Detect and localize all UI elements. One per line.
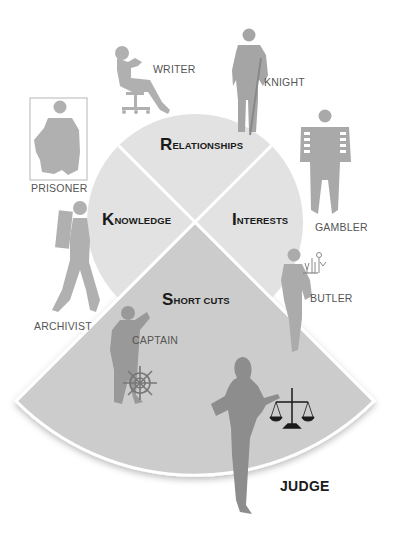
segment-rest: ELATIONSHIPS (172, 140, 243, 151)
segment-rest: NOWLEDGE (114, 215, 171, 226)
segment-label-interests: INTERESTS (232, 210, 288, 230)
writer-figure-icon (115, 46, 170, 114)
prisoner-figure-icon (34, 101, 80, 176)
segment-rest: HORT CUTS (173, 295, 229, 306)
diagram-canvas: RELATIONSHIPS KNOWLEDGE INTERESTS SHORT … (0, 0, 393, 545)
ship-wheel-icon (123, 366, 157, 400)
role-label-butler: BUTLER (310, 292, 353, 304)
segment-initial: K (102, 210, 114, 229)
segment-initial: S (162, 290, 173, 309)
segment-label-knowledge: KNOWLEDGE (102, 210, 171, 230)
gambler-figure-icon (300, 110, 351, 215)
role-label-prisoner: PRISONER (31, 182, 87, 194)
segment-label-shortcuts: SHORT CUTS (162, 290, 230, 310)
segment-initial: R (160, 135, 172, 154)
role-label-gambler: GAMBLER (315, 221, 368, 233)
role-label-writer: WRITER (153, 63, 196, 75)
segment-label-relationships: RELATIONSHIPS (160, 135, 243, 155)
role-label-judge: JUDGE (280, 478, 330, 494)
drinks-tray-icon (305, 253, 326, 274)
segment-rest: NTERESTS (237, 215, 288, 226)
role-label-knight: KNIGHT (264, 76, 305, 88)
role-label-captain: CAPTAIN (132, 334, 178, 346)
diagram-graphics (0, 0, 393, 545)
role-label-archivist: ARCHIVIST (34, 320, 92, 332)
knight-figure-icon (232, 29, 268, 136)
